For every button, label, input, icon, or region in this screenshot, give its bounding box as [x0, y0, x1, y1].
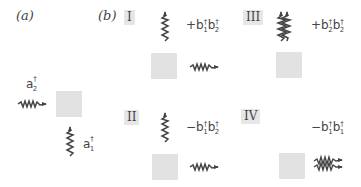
wave-vertical-icon [160, 111, 170, 143]
panel-a-label: (a) [16, 8, 34, 23]
case-I-label: I [124, 10, 135, 25]
system-square [152, 154, 178, 180]
double-wave-vertical-icon [276, 10, 292, 42]
case-III-term: +b†2b†2 [311, 18, 344, 34]
case-I-term: +b†1b†2 [186, 18, 219, 34]
panel-b-label: (b) [98, 8, 116, 23]
wave-vertical-icon [160, 10, 170, 42]
wave-horizontal-icon [18, 99, 48, 109]
case-IV-label: IV [241, 109, 260, 124]
case-II-term: −b†1b†2 [186, 120, 219, 136]
case-IV-term: −b†1b†1 [311, 120, 344, 136]
double-wave-horizontal-icon [314, 156, 346, 172]
system-square [151, 53, 177, 79]
case-II-label: II [124, 110, 139, 125]
wave-horizontal-icon [190, 62, 220, 72]
system-square [279, 153, 305, 179]
operator-a1-dagger: a†1 [83, 137, 94, 153]
system-square [56, 91, 82, 117]
case-III-label: III [243, 10, 263, 25]
system-square [276, 52, 302, 78]
wave-horizontal-icon [190, 162, 220, 172]
wave-vertical-icon [65, 125, 75, 157]
operator-a2-dagger: a†2 [26, 77, 37, 93]
